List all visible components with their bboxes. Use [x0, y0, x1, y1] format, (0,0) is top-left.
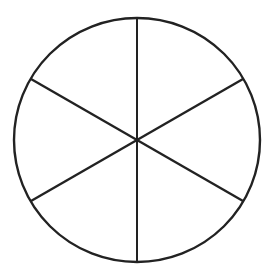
fraction-circle-diagram [0, 0, 275, 280]
figure-canvas [0, 0, 275, 280]
